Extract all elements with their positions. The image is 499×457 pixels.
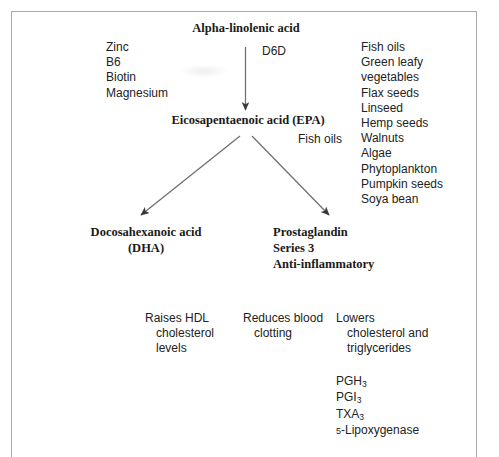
label-d6d-enzyme: D6D <box>262 44 286 59</box>
food-source-item: Hemp seeds <box>361 116 473 131</box>
node-docosahexanoic-acid-dha: Docosahexanoic acid (DHA) <box>70 224 222 256</box>
food-source-item: Phytoplankton <box>361 162 473 177</box>
mediator-pgh3-name: PGH <box>336 374 362 388</box>
node-prostaglandin-series-3: Prostaglandin Series 3 Anti-inflammatory <box>273 224 423 272</box>
mediator-txa3: TXA3 <box>336 407 419 423</box>
food-source-item: Green leafy vegetables <box>361 55 473 85</box>
food-source-item: Algae <box>361 146 473 161</box>
benefit-lowers-cholesterol-triglycerides: Lowers cholesterol and triglycerides <box>336 311 453 357</box>
food-source-item: Flax seeds <box>361 86 473 101</box>
node-alpha-linolenic-acid: Alpha-linolenic acid <box>159 20 333 36</box>
list-cofactors: Zinc B6 Biotin Magnesium <box>106 40 168 101</box>
mediator-pgi3-subscript: 3 <box>357 395 362 405</box>
mediator-txa3-subscript: 3 <box>359 412 364 422</box>
scan-artifact <box>178 64 230 78</box>
food-source-item: Fish oils <box>361 40 473 55</box>
arrow-epa-to-dha <box>141 136 240 215</box>
node-eicosapentaenoic-acid-epa: Eicosapentaenoic acid (EPA) <box>155 112 341 128</box>
mediator-pgh3: PGH3 <box>336 374 419 390</box>
mediator-5-lipoxygenase: 5-Lipoxygenase <box>336 423 419 439</box>
mediator-pgh3-subscript: 3 <box>362 379 367 389</box>
mediator-5-lipoxygenase-name: -Lipoxygenase <box>341 423 419 437</box>
food-source-item: Pumpkin seeds <box>361 177 473 192</box>
mediator-txa3-name: TXA <box>336 407 359 421</box>
food-source-item: Linseed <box>361 101 473 116</box>
list-chemical-mediators: PGH3 PGI3 TXA3 5-Lipoxygenase <box>336 374 419 440</box>
label-epa-fish-oils: Fish oils <box>298 132 342 147</box>
food-source-item: Soya bean <box>361 192 473 207</box>
diagram-canvas: Alpha-linolenic acid D6D Eicosapentaenoi… <box>0 0 499 457</box>
food-source-item: Walnuts <box>361 131 473 146</box>
list-food-sources: Fish oils Green leafy vegetables Flax se… <box>361 40 473 207</box>
benefit-raises-hdl-cholesterol: Raises HDL cholesterol levels <box>145 311 254 357</box>
mediator-pgi3: PGI3 <box>336 390 419 406</box>
arrow-epa-to-prostaglandin <box>252 136 329 215</box>
mediator-pgi3-name: PGI <box>336 390 357 404</box>
